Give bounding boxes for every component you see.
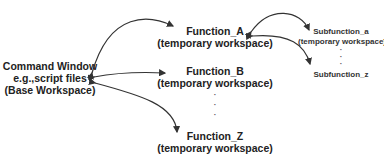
function-b-node: Function_B (temporary workspace) [150, 65, 280, 89]
function-a-node: Function_A (temporary workspace) [150, 25, 280, 49]
subfunction-a-node: Subfunction_a (temporary workspace) [298, 27, 384, 47]
base-line-1: Command Window [0, 60, 100, 72]
function-z-name: Function_Z [150, 130, 280, 142]
subfunction-ellipsis: · · · [333, 46, 349, 67]
function-z-node: Function_Z (temporary workspace) [150, 130, 280, 154]
base-line-3: (Base Workspace) [0, 84, 100, 96]
arrow-base-to-function-z [95, 83, 177, 132]
function-b-name: Function_B [150, 65, 280, 77]
function-a-name: Function_A [150, 25, 280, 37]
base-workspace-node: Command Window e.g.,script files (Base W… [0, 60, 100, 96]
subfunction-z-node: Subfunction_z [298, 70, 384, 80]
subfunction-a-name: Subfunction_a [298, 27, 384, 37]
subfunction-z-name: Subfunction_z [298, 70, 384, 80]
function-ellipsis: · · · [207, 90, 223, 120]
function-z-workspace: (temporary workspace) [150, 142, 280, 154]
function-a-workspace: (temporary workspace) [150, 37, 280, 49]
function-b-workspace: (temporary workspace) [150, 77, 280, 89]
base-line-2: e.g.,script files [0, 72, 100, 84]
